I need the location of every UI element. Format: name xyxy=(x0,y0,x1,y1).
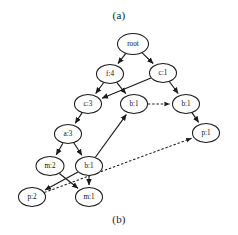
node-label-root: root xyxy=(127,40,139,48)
edge-p2-to-p1 xyxy=(44,138,191,192)
node-a3[interactable]: a:3 xyxy=(55,125,82,144)
node-b1rt[interactable]: b:1 xyxy=(173,95,200,114)
edge-a3-to-m2 xyxy=(56,143,63,155)
fp-tree-canvas: rootf:4c:1c:3b:1b:1a:3p:1m:2b:1p:2m:1 xyxy=(0,0,238,235)
node-label-c1a: c:1 xyxy=(159,69,168,77)
node-f4[interactable]: f:4 xyxy=(97,65,124,84)
node-b1low[interactable]: b:1 xyxy=(76,157,103,176)
node-c3[interactable]: c:3 xyxy=(75,95,102,114)
node-p1[interactable]: p:1 xyxy=(193,124,220,143)
node-c1a[interactable]: c:1 xyxy=(150,64,177,83)
node-m2[interactable]: m:2 xyxy=(36,157,64,176)
edge-c1a-to-b1rt xyxy=(169,82,178,94)
edge-a3-to-b1low xyxy=(74,143,82,155)
caption-b: (b) xyxy=(0,213,238,225)
edge-root-to-c1a xyxy=(142,53,153,64)
node-label-p2: p:2 xyxy=(27,193,37,201)
node-label-m1: m:1 xyxy=(83,193,95,201)
node-label-a3: a:3 xyxy=(64,130,73,138)
node-label-b1rt: b:1 xyxy=(181,100,191,108)
node-root[interactable]: root xyxy=(118,34,149,55)
node-p2[interactable]: p:2 xyxy=(19,188,46,207)
fp-tree-figure: (a) rootf:4c:1c:3b:1b:1a:3p:1m:2b:1p:2m:… xyxy=(0,0,238,235)
node-label-b1low: b:1 xyxy=(84,162,94,170)
edge-f4-to-c3 xyxy=(96,83,104,94)
node-layer: rootf:4c:1c:3b:1b:1a:3p:1m:2b:1p:2m:1 xyxy=(19,34,220,207)
node-label-m2: m:2 xyxy=(44,162,56,170)
node-label-b1mid: b:1 xyxy=(129,100,139,108)
edge-b1rt-to-p1 xyxy=(192,113,199,122)
edge-b1low-to-b1mid xyxy=(95,115,126,158)
node-label-c3: c:3 xyxy=(84,100,93,108)
node-m1[interactable]: m:1 xyxy=(76,188,103,207)
node-label-p1: p:1 xyxy=(201,129,211,137)
node-label-f4: f:4 xyxy=(106,70,114,78)
edge-c3-to-a3 xyxy=(75,113,82,123)
node-b1mid[interactable]: b:1 xyxy=(121,95,148,114)
edge-root-to-f4 xyxy=(118,54,126,64)
